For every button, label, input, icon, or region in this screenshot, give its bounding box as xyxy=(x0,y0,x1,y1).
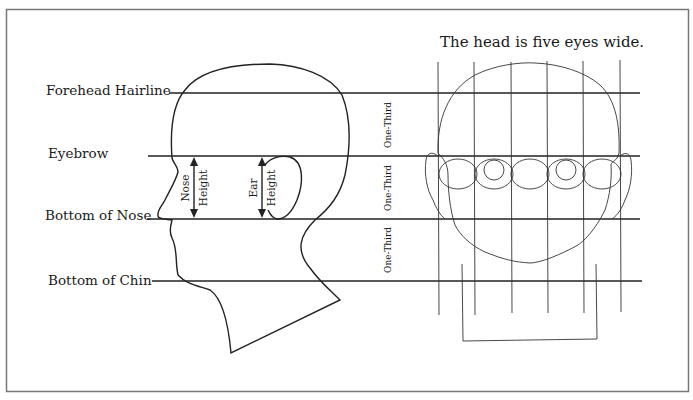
head-proportions-diagram: The head is five eyes wide. Forehead Hai… xyxy=(0,0,693,400)
label-forehead-hairline: Forehead Hairline xyxy=(46,82,171,98)
eye-space-5 xyxy=(583,159,621,189)
nose-label: Nose xyxy=(179,174,191,201)
eye-right xyxy=(547,159,585,189)
one-third-label-upper: One-Third xyxy=(383,102,393,148)
one-third-label-lower: One-Third xyxy=(383,227,393,273)
diagram-frame xyxy=(7,10,689,392)
ear-height-label: Height xyxy=(265,169,277,206)
one-third-label-middle: One-Third xyxy=(383,165,393,211)
label-eyebrow: Eyebrow xyxy=(48,145,109,161)
neck-outline xyxy=(462,264,597,341)
right-iris xyxy=(556,160,576,180)
nose-height-label: Height xyxy=(197,169,209,206)
diagram-title: The head is five eyes wide. xyxy=(440,33,644,51)
left-iris xyxy=(484,160,504,180)
ear-label: Ear xyxy=(247,178,259,198)
label-bottom-of-chin: Bottom of Chin xyxy=(48,272,152,288)
eyes-row xyxy=(439,159,621,189)
eye-space-1 xyxy=(439,159,477,189)
eye-space-center xyxy=(511,159,549,189)
eye-left xyxy=(475,159,513,189)
label-bottom-of-nose: Bottom of Nose xyxy=(45,207,151,223)
profile-head-outline xyxy=(158,64,349,353)
guide-lines xyxy=(147,93,642,281)
left-ear-outline xyxy=(425,153,445,219)
